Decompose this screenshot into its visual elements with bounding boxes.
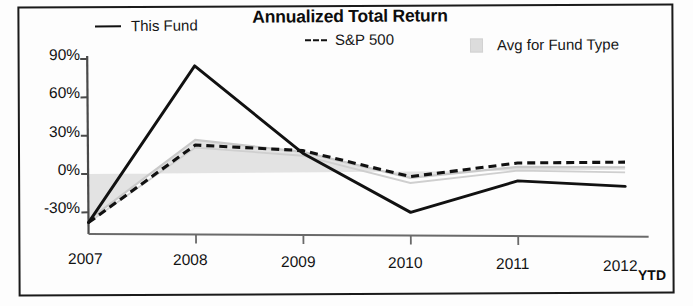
ytd-label: YTD xyxy=(638,267,666,283)
fund-performance-chart: Annualized Total Return This Fund S&P 50… xyxy=(0,0,693,306)
y-axis-tick-4: -30% xyxy=(44,199,80,217)
y-axis-tick-1: 60% xyxy=(49,84,80,102)
x-axis-tick-2011: 2011 xyxy=(496,255,529,273)
y-axis-tick-3: 0% xyxy=(58,161,81,179)
x-axis-tick-2010: 2010 xyxy=(388,254,423,272)
y-axis-tick-2: 30% xyxy=(49,123,80,141)
x-axis-tick-2007: 2007 xyxy=(68,250,103,268)
y-axis-tick-0: 90% xyxy=(49,46,80,64)
plot-area xyxy=(0,0,693,306)
x-axis-tick-2012: 2012 xyxy=(603,257,638,275)
x-axis-tick-2008: 2008 xyxy=(173,251,208,269)
x-axis-tick-2009: 2009 xyxy=(281,253,316,271)
